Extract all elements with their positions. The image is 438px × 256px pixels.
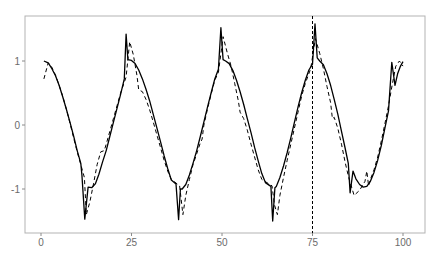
x-tick-label: 50 [216, 237, 228, 248]
x-axis: 0255075100 [38, 233, 412, 248]
y-tick-label: 0 [14, 120, 20, 131]
x-tick-label: 0 [38, 237, 44, 248]
y-tick-label: 1 [14, 56, 20, 67]
y-tick-label: -1 [11, 184, 20, 195]
line-chart: 0255075100 -101 [0, 0, 438, 256]
x-tick-label: 75 [307, 237, 319, 248]
x-tick-label: 100 [395, 237, 412, 248]
plot-panel-border [25, 16, 425, 233]
x-tick-label: 25 [126, 237, 138, 248]
y-axis: -101 [11, 56, 25, 195]
